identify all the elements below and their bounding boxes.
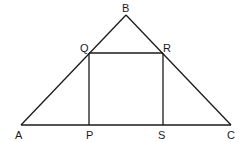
label-p: P — [86, 129, 93, 141]
side-ab — [21, 15, 126, 125]
label-b: B — [122, 2, 129, 14]
label-q: Q — [80, 42, 89, 54]
label-s: S — [158, 129, 165, 141]
label-r: R — [163, 42, 171, 54]
side-bc — [126, 15, 231, 125]
label-a: A — [15, 129, 23, 141]
triangle-rectangle-diagram: B Q R A P S C — [0, 0, 239, 142]
label-c: C — [227, 129, 235, 141]
